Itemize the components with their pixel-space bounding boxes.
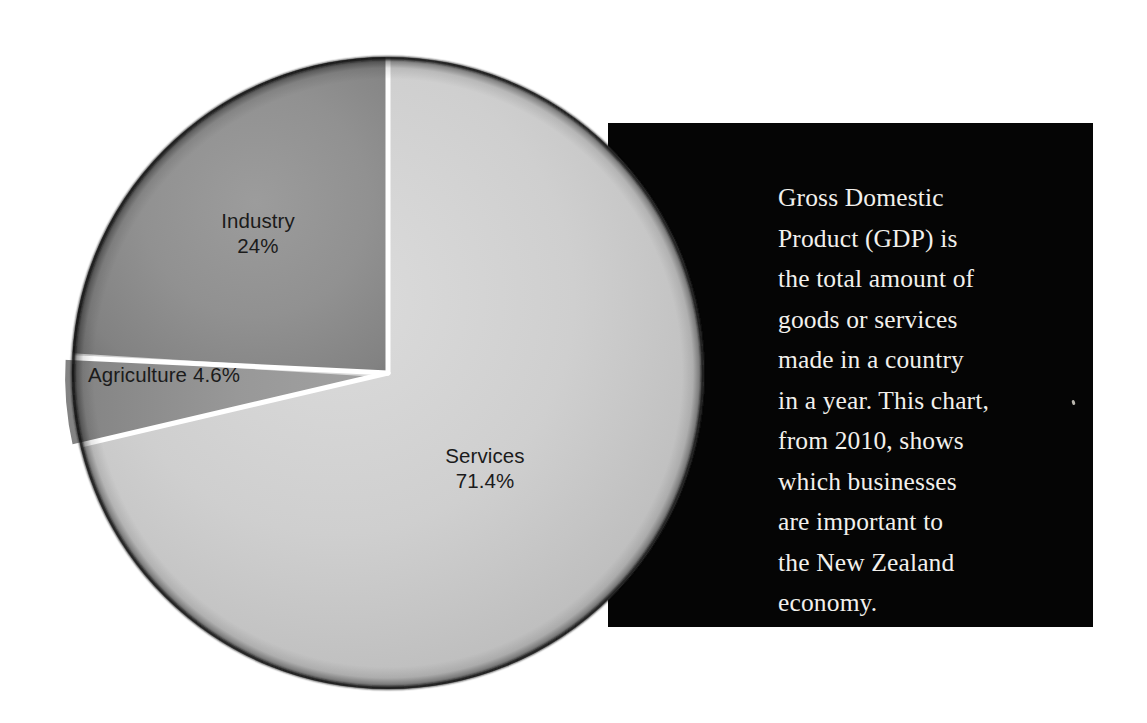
pie-label-agriculture: Agriculture 4.6% [88, 362, 318, 387]
pie-label-industry: Industry 24% [178, 208, 338, 258]
caption-text: Gross Domestic Product (GDP) is the tota… [778, 178, 1028, 624]
speck-artifact [1071, 400, 1075, 406]
chart-figure: Gross Domestic Product (GDP) is the tota… [0, 0, 1147, 723]
pie-label-services: Services 71.4% [400, 443, 570, 493]
